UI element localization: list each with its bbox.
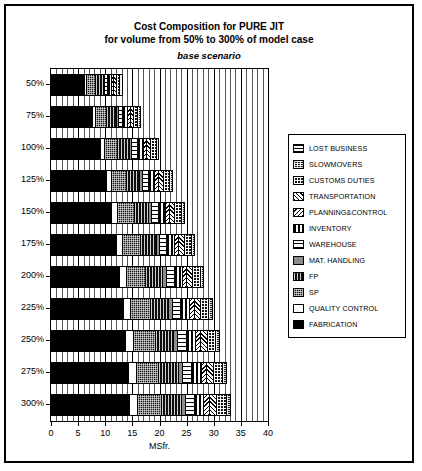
bar-segment-qualitycontrol[interactable] [124,299,131,319]
bar-segment-fp[interactable] [96,75,104,95]
legend-item-lostbusiness[interactable]: LOST BUSINESS [293,140,402,156]
bar-segment-inventory[interactable] [181,299,190,319]
y-axis-tick-label: 275% [21,366,44,376]
bar-segment-warehouse[interactable] [173,299,181,319]
bar-segment-fp[interactable] [107,107,117,127]
legend-item-slowmovers[interactable]: SLOWMOVERS [293,156,402,172]
bar-segment-warehouse[interactable] [183,363,192,383]
bar-segment-fabrication[interactable] [51,267,120,287]
stacked-bar[interactable] [51,139,158,159]
bar-segment-slowmovers[interactable] [201,267,204,287]
legend-item-qualitycontrol[interactable]: QUALITY CONTROL [293,300,402,316]
stacked-bar[interactable] [51,395,230,415]
bar-segment-customsduties[interactable] [208,331,217,351]
legend-item-mathandling[interactable]: MAT. HANDLING [293,252,402,268]
bar-segment-fabrication[interactable] [51,299,124,319]
bar-segment-fp[interactable] [127,171,140,191]
bar-segment-fabrication[interactable] [51,107,93,127]
x-axis-tick [132,422,133,426]
bar-segment-fabrication[interactable] [51,363,129,383]
bar-segment-slowmovers[interactable] [209,299,212,319]
bar-segment-sp[interactable] [118,203,135,223]
stacked-bar[interactable] [51,107,140,127]
legend-item-fp[interactable]: FP [293,268,402,284]
bar-segment-sp[interactable] [134,331,156,351]
stacked-bar[interactable] [51,235,194,255]
stacked-bar[interactable] [51,171,172,191]
bar-segment-fabrication[interactable] [51,75,85,95]
bar-segment-fabrication[interactable] [51,203,112,223]
bar-segment-fabrication[interactable] [51,139,101,159]
bar-segment-sp[interactable] [138,395,161,415]
bar-segment-sp[interactable] [105,139,118,159]
bar-segment-fabrication[interactable] [51,395,130,415]
bar-segment-slowmovers[interactable] [138,107,140,127]
bar-segment-customsduties[interactable] [201,299,209,319]
bar-segment-fp[interactable] [159,363,179,383]
bar-segment-transportation[interactable] [207,363,214,383]
bar-segment-fp[interactable] [118,139,129,159]
bar-segment-sp[interactable] [123,235,141,255]
bar-segment-slowmovers[interactable] [223,363,226,383]
bar-segment-warehouse[interactable] [178,331,186,351]
bar-segment-fp[interactable] [135,203,150,223]
bar-row [51,395,268,415]
bar-segment-fp[interactable] [141,235,157,255]
bar-segment-slowmovers[interactable] [157,139,159,159]
bar-segment-slowmovers[interactable] [227,395,230,415]
bar-segment-slowmovers[interactable] [120,75,121,95]
legend-swatch-planningcontrol-icon [293,208,304,217]
bar-segment-customsduties[interactable] [214,363,223,383]
bar-segment-slowmovers[interactable] [182,203,184,223]
legend-item-sp[interactable]: SP [293,284,402,300]
legend-item-warehouse[interactable]: WAREHOUSE [293,236,402,252]
bar-segment-inventory[interactable] [187,331,196,351]
bar-segment-fabrication[interactable] [51,331,126,351]
legend-label: INVENTORY [309,224,352,233]
legend-item-fabrication[interactable]: FABRICATION [293,316,402,332]
bar-segment-transportation[interactable] [210,395,218,415]
bar-segment-qualitycontrol[interactable] [126,331,134,351]
bar-segment-qualitycontrol[interactable] [129,363,137,383]
bar-segment-customsduties[interactable] [185,235,192,255]
bar-segment-sp[interactable] [131,299,152,319]
bar-segment-slowmovers[interactable] [192,235,194,255]
legend-item-inventory[interactable]: INVENTORY [293,220,402,236]
legend-item-planningcontrol[interactable]: PLANNING&CONTROL [293,204,402,220]
bar-segment-qualitycontrol[interactable] [130,395,138,415]
bar-segment-sp[interactable] [137,363,160,383]
legend-item-customsduties[interactable]: CUSTOMS DUTIES [293,172,402,188]
stacked-bar[interactable] [51,75,122,95]
bar-segment-inventory[interactable] [195,395,205,415]
bar-segment-fabrication[interactable] [51,171,107,191]
bar-row [51,139,268,159]
bar-segment-customsduties[interactable] [217,395,226,415]
bar-segment-fabrication[interactable] [51,235,117,255]
bar-segment-sp[interactable] [87,75,96,95]
stacked-bar[interactable] [51,299,212,319]
stacked-bar[interactable] [51,363,226,383]
bar-segment-inventory[interactable] [175,267,183,287]
legend-item-transportation[interactable]: TRANSPORTATION [293,188,402,204]
bar-segment-warehouse[interactable] [186,395,195,415]
bar-segment-fp[interactable] [156,331,174,351]
bar-segment-sp[interactable] [127,267,147,287]
bar-segment-customsduties[interactable] [193,267,201,287]
bar-segment-inventory[interactable] [167,235,175,255]
bar-row [51,363,268,383]
bar-segment-slowmovers[interactable] [170,171,172,191]
bar-segment-fp[interactable] [162,395,182,415]
bar-segment-fp[interactable] [146,267,163,287]
bar-segment-transportation[interactable] [201,331,208,351]
bar-segment-sp[interactable] [96,107,107,127]
stacked-bar[interactable] [51,267,203,287]
bar-segment-warehouse[interactable] [167,267,175,287]
stacked-bar[interactable] [51,331,219,351]
bar-segment-slowmovers[interactable] [216,331,219,351]
bar-segment-fp[interactable] [151,299,169,319]
bar-segment-inventory[interactable] [159,203,166,223]
bar-segment-sp[interactable] [112,171,127,191]
bar-segment-inventory[interactable] [192,363,202,383]
bar-segment-warehouse[interactable] [160,235,167,255]
stacked-bar[interactable] [51,203,184,223]
